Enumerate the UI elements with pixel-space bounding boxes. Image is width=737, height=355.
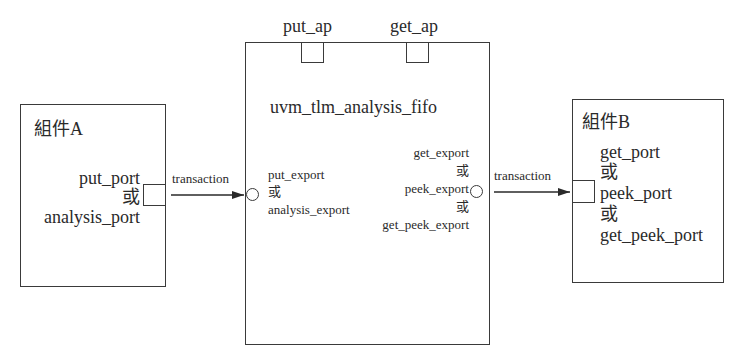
connection-arrows xyxy=(0,0,737,355)
transaction-label-fifo-to-b: transaction xyxy=(494,169,551,182)
transaction-label-a-to-fifo: transaction xyxy=(172,172,229,185)
